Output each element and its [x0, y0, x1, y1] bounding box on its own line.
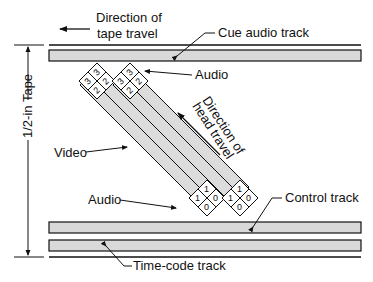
audio-top-label: Audio [195, 67, 228, 82]
tape-width-dimension: 1/2-in Tape [14, 45, 44, 257]
audio-digit: 0 [213, 193, 218, 203]
tape-direction-indicator: Direction of tape travel [60, 10, 162, 41]
audio-digit: 1 [228, 193, 233, 203]
cue-audio-label: Cue audio track [218, 25, 310, 40]
audio-digit: 1 [204, 184, 209, 194]
audio-digit: 0 [237, 202, 242, 212]
time-code-label: Time-code track [133, 258, 226, 273]
tape-direction-label-line2: tape travel [97, 26, 158, 41]
video-callout: Video [54, 145, 127, 160]
tape-width-label: 1/2-in Tape [20, 74, 35, 138]
tape-track-diagram: Direction of tape travel Cue audio track… [0, 0, 373, 282]
control-track [49, 222, 361, 233]
audio-bottom-label: Audio [88, 192, 121, 207]
cue-audio-track [49, 50, 361, 61]
audio-digit: 0 [204, 202, 209, 212]
audio-digit: 1 [237, 184, 242, 194]
control-label: Control track [285, 190, 359, 205]
time-code-track [49, 240, 361, 251]
audio-bottom-callout: Audio [88, 192, 176, 208]
audio-top-callout: Audio [145, 67, 228, 82]
audio-digit: 0 [246, 193, 251, 203]
tape-direction-label-line1: Direction of [96, 10, 162, 25]
audio-digit: 1 [195, 193, 200, 203]
video-label: Video [54, 145, 87, 160]
